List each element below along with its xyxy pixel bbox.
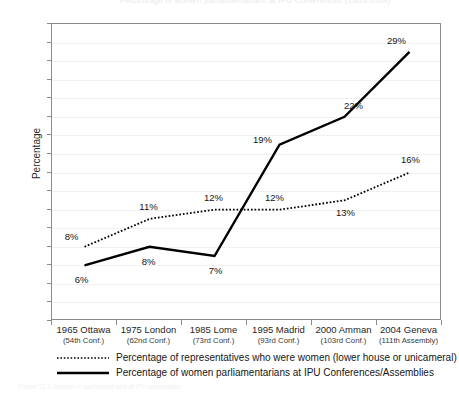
y-tick-mark — [47, 301, 51, 302]
x-category-name: 2000 Amman — [316, 324, 372, 335]
x-category-sublabel: (103rd Conf.) — [311, 336, 376, 346]
x-category-label: 2000 Amman(103rd Conf.) — [311, 324, 376, 346]
series-layer — [52, 24, 442, 321]
x-category-name: 1965 Ottawa — [57, 324, 111, 335]
x-category-label: 1975 London(62nd Conf.) — [116, 324, 181, 346]
x-category-name: 1975 London — [121, 324, 176, 335]
x-category-name: 1985 Lome — [190, 324, 238, 335]
x-category-label: 2004 Geneva(111th Assembly) — [376, 324, 441, 346]
x-category-label: 1995 Madrid(93rd Conf.) — [246, 324, 311, 346]
x-tick-mark — [441, 320, 442, 325]
legend-label-dotted: Percentage of representatives who were w… — [116, 352, 457, 363]
data-point-label: 7% — [209, 265, 223, 276]
x-category-sublabel: (54th Conf.) — [51, 336, 116, 346]
x-category-sublabel: (111th Assembly) — [376, 336, 441, 346]
data-point-label: 13% — [336, 207, 355, 218]
data-point-label: 8% — [142, 255, 156, 266]
y-tick-mark — [47, 23, 51, 24]
legend-label-solid: Percentage of women parliamentarians at … — [116, 367, 434, 378]
y-tick-mark — [47, 283, 51, 284]
legend-solid-line-icon — [57, 367, 109, 379]
y-tick-mark — [47, 116, 51, 117]
y-tick-mark — [47, 190, 51, 191]
data-point-label: 29% — [387, 34, 406, 45]
data-point-label: 22% — [344, 99, 363, 110]
data-point-label: 19% — [253, 133, 272, 144]
x-category-sublabel: (93rd Conf.) — [246, 336, 311, 346]
figure-caption: Figure 12.1 Women in parliament and at I… — [18, 383, 318, 390]
y-tick-mark — [47, 134, 51, 135]
chart-title-remnant: Percentage of women parliamentarians at … — [120, 0, 450, 5]
legend-item-solid: Percentage of women parliamentarians at … — [0, 365, 459, 380]
data-point-label: 6% — [75, 274, 89, 285]
data-point-label: 16% — [401, 153, 420, 164]
x-category-label: 1965 Ottawa(54th Conf.) — [51, 324, 116, 346]
y-tick-mark — [47, 227, 51, 228]
y-axis-title: Percentage — [31, 94, 42, 214]
x-category-sublabel: (62nd Conf.) — [116, 336, 181, 346]
series-line-dotted — [85, 173, 410, 247]
x-category-sublabel: (73rd Conf.) — [181, 336, 246, 346]
y-tick-mark — [47, 79, 51, 80]
plot-area — [51, 23, 441, 320]
x-category-label: 1985 Lome(73rd Conf.) — [181, 324, 246, 346]
data-point-label: 8% — [65, 230, 79, 241]
y-tick-mark — [47, 209, 51, 210]
x-category-name: 1995 Madrid — [252, 324, 305, 335]
y-tick-mark — [47, 97, 51, 98]
x-category-name: 2004 Geneva — [380, 324, 437, 335]
chart-figure: Percentage of women parliamentarians at … — [0, 0, 459, 395]
legend-dotted-line-icon — [57, 352, 109, 364]
chart-legend: Percentage of representatives who were w… — [0, 350, 459, 380]
y-tick-mark — [47, 172, 51, 173]
legend-item-dotted: Percentage of representatives who were w… — [0, 350, 459, 365]
y-tick-mark — [47, 264, 51, 265]
data-point-label: 12% — [204, 191, 223, 202]
data-point-label: 12% — [265, 191, 284, 202]
data-point-label: 11% — [139, 200, 157, 211]
y-tick-mark — [47, 42, 51, 43]
y-tick-mark — [47, 246, 51, 247]
y-tick-mark — [47, 153, 51, 154]
y-tick-mark — [47, 60, 51, 61]
series-line-solid — [85, 52, 410, 265]
